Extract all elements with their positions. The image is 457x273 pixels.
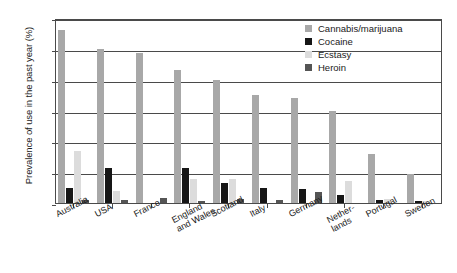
legend-item[interactable]: Ecstasy [305, 48, 455, 61]
bar [407, 174, 414, 203]
chart-legend: Cannabis/marijuanaCocaineEcstasyHeroin [305, 22, 455, 74]
bar-chart: Prevalence of use in the past year (%) 0… [0, 0, 457, 273]
legend-swatch-icon [305, 25, 312, 32]
y-tick-mark [52, 82, 56, 83]
bar [190, 179, 197, 203]
bar-group [97, 20, 129, 203]
bar [213, 80, 220, 203]
legend-swatch-icon [305, 51, 312, 58]
bar-group [174, 20, 206, 203]
bar [368, 154, 375, 203]
bar [174, 70, 181, 203]
bar [121, 200, 128, 203]
bar [260, 188, 267, 203]
legend-label: Cannabis/marijuana [318, 24, 403, 34]
x-axis-labels: AustraliaUSAFranceEngland and WalesScotl… [0, 206, 457, 273]
bar [337, 195, 344, 203]
y-tick-mark [52, 20, 56, 21]
legend-label: Cocaine [318, 37, 353, 47]
y-tick-mark [52, 51, 56, 52]
legend-item[interactable]: Heroin [305, 61, 455, 74]
bar [113, 191, 120, 203]
bar-group [58, 20, 90, 203]
bar [291, 98, 298, 203]
legend-item[interactable]: Cannabis/marijuana [305, 22, 455, 35]
legend-label: Heroin [318, 63, 346, 73]
bar [182, 168, 189, 203]
legend-swatch-icon [305, 38, 312, 45]
x-tick-label: Nether- lands [325, 202, 361, 233]
bar-group [213, 20, 245, 203]
bar [97, 49, 104, 203]
bar [105, 168, 112, 203]
bar [329, 111, 336, 204]
y-axis-title: Prevalence of use in the past year (%) [23, 6, 34, 206]
bar-group [252, 20, 284, 203]
bar [58, 30, 65, 203]
bar [345, 181, 352, 203]
legend-item[interactable]: Cocaine [305, 35, 455, 48]
legend-label: Ecstasy [318, 50, 351, 60]
bar [136, 53, 143, 203]
y-tick-mark [52, 143, 56, 144]
legend-swatch-icon [305, 64, 312, 71]
bar [160, 198, 167, 203]
y-tick-mark [52, 174, 56, 175]
y-tick-mark [52, 113, 56, 114]
bar-group [136, 20, 168, 203]
bar [252, 95, 259, 203]
bar [276, 200, 283, 203]
